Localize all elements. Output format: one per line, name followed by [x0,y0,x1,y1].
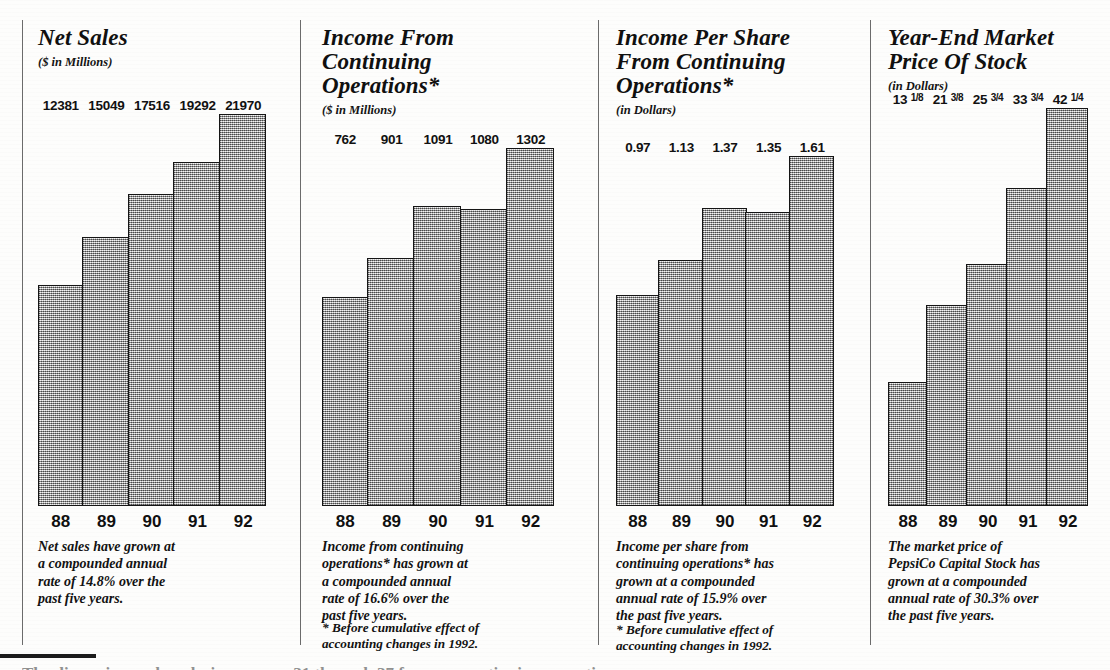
bar-item[interactable]: 33 3/4 [1008,108,1048,506]
bar-value-label: 1.13 [669,140,694,155]
bar-item[interactable]: 0.97 [616,156,660,506]
bar-value-label: 0.97 [625,140,650,155]
x-tick: 90 [129,512,175,532]
panel-divider [598,20,599,645]
bar-value-label: 1.37 [712,140,737,155]
chart-panel-income-per-share: Income Per Share From Continuing Operati… [598,0,870,669]
bar-shape [173,162,220,506]
bar-shape [1006,188,1048,506]
bar-value-label: 17516 [134,98,170,113]
bar-value-label: 33 3/4 [1013,92,1043,107]
x-tick: 89 [368,512,414,532]
x-axis-labels: 88 89 90 91 92 [888,512,1088,532]
bottom-horizontal-rule [0,654,96,658]
plot-area: 0.97 1.13 1.37 1.35 [616,156,834,506]
x-tick: 92 [1048,512,1088,532]
x-axis-labels: 88 89 90 91 92 [322,512,554,532]
bar-item[interactable]: 1.35 [747,156,791,506]
bar-item[interactable]: 12381 [38,114,84,506]
x-tick: 90 [968,512,1008,532]
bar-value-label: 13 1/8 [893,92,923,107]
x-tick: 89 [928,512,968,532]
x-tick: 88 [616,512,660,532]
bar-value-label: 762 [334,132,356,147]
x-tick: 91 [1008,512,1048,532]
bar-item[interactable]: 21 3/8 [928,108,968,506]
chart-title: Income From Continuing Operations* [322,26,580,98]
x-tick: 90 [703,512,747,532]
bar-value-label: 19292 [180,98,216,113]
plot-area: 12381 15049 17516 19292 [38,114,266,506]
x-tick: 89 [660,512,704,532]
chart-caption: Income from continuing operations* has g… [322,538,542,625]
bar-item[interactable]: 42 1/4 [1048,108,1088,506]
bar-value-label: 21970 [225,98,261,113]
chart-footnote: * Before cumulative effect of accounting… [616,622,844,654]
chart-subtitle: (in Dollars) [616,103,858,118]
x-tick: 91 [747,512,791,532]
bar-item[interactable]: 13 1/8 [888,108,928,506]
bar-value-label: 1080 [470,132,499,147]
x-tick: 92 [220,512,266,532]
bar-value-label: 1302 [516,132,545,147]
bar-group: 762 901 1091 1080 [322,148,554,506]
bar-item[interactable]: 15049 [84,114,130,506]
plot-area: 762 901 1091 1080 [322,148,554,506]
bar-value-label: 15049 [88,98,124,113]
bottom-cut-text: The discussion and analysis on pages 31 … [22,664,1082,670]
x-tick: 91 [175,512,221,532]
bar-shape [38,285,84,506]
chart-subtitle: ($ in Millions) [322,103,580,118]
bar-shape [789,156,834,506]
bar-shape [128,194,175,506]
chart-title: Net Sales [38,26,284,50]
bar-group: 12381 15049 17516 19292 [38,114,266,506]
bar-shape [926,305,968,506]
panel-divider [870,20,871,645]
bar-shape [322,297,368,506]
bar-item[interactable]: 901 [368,148,414,506]
x-tick: 92 [508,512,554,532]
bar-value-label: 1.61 [800,140,825,155]
x-axis-labels: 88 89 90 91 92 [38,512,266,532]
bar-value-label: 1.35 [756,140,781,155]
bar-shape [219,114,266,506]
x-tick: 90 [415,512,461,532]
chart-panel-year-end-market-price: Year-End Market Price Of Stock (in Dolla… [870,0,1110,669]
x-tick: 88 [888,512,928,532]
chart-caption: The market price of PepsiCo Capital Stoc… [888,538,1100,625]
x-tick: 92 [790,512,834,532]
bar-shape [82,237,129,506]
bar-shape [367,258,415,506]
chart-footnote: * Before cumulative effect of accounting… [322,620,542,652]
bar-item[interactable]: 762 [322,148,368,506]
bar-item[interactable]: 1.37 [703,156,747,506]
bar-shape [506,148,554,506]
bar-shape [702,208,747,506]
plot-area: 13 1/8 21 3/8 25 3/4 33 3/4 [888,108,1088,506]
bar-item[interactable]: 25 3/4 [968,108,1008,506]
x-tick: 88 [38,512,84,532]
chart-caption: Income per share from continuing operati… [616,538,844,625]
bar-shape [888,382,928,506]
bar-item[interactable]: 1.13 [660,156,704,506]
bar-shape [460,209,508,506]
bar-group: 0.97 1.13 1.37 1.35 [616,156,834,506]
bar-value-label: 42 1/4 [1053,92,1083,107]
bar-shape [658,260,703,506]
x-tick: 88 [322,512,368,532]
chart-title: Income Per Share From Continuing Operati… [616,26,858,98]
bar-item[interactable]: 21970 [220,114,266,506]
bar-item[interactable]: 19292 [175,114,221,506]
bar-shape [1046,108,1088,506]
chart-title: Year-End Market Price Of Stock [888,26,1100,74]
bar-item[interactable]: 1091 [415,148,461,506]
chart-panel-net-sales: Net Sales ($ in Millions) 12381 15049 17… [0,0,300,669]
x-tick: 91 [461,512,507,532]
bar-item[interactable]: 1.61 [790,156,834,506]
bar-item[interactable]: 17516 [129,114,175,506]
bar-item[interactable]: 1302 [508,148,554,506]
panel-divider [300,20,301,645]
bar-item[interactable]: 1080 [461,148,507,506]
